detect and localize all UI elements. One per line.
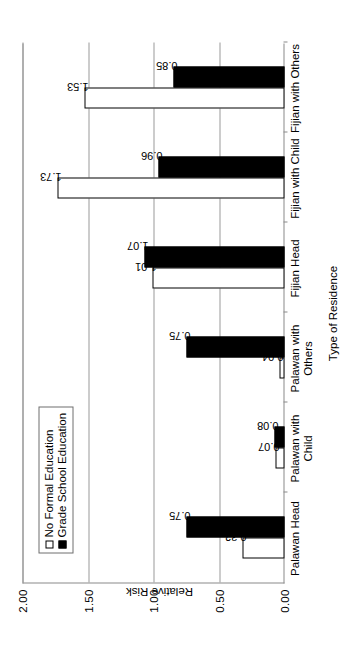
- gridline: [22, 42, 23, 582]
- x-axis-title: Type of Residence: [326, 43, 338, 583]
- bar-value-label: 0.75: [168, 509, 189, 521]
- bar-value-label: 1.53: [66, 80, 87, 92]
- legend-item-grade-school-education: Grade School Education: [55, 412, 68, 548]
- y-tick-label: 0.00: [278, 589, 290, 645]
- x-tick-label: Palawan with Child: [288, 398, 314, 498]
- chart-legend: No Formal Education Grade School Educati…: [38, 406, 73, 553]
- legend-swatch-white-icon: [45, 540, 53, 548]
- x-tick-mark: [283, 41, 287, 42]
- legend-swatch-black-icon: [58, 540, 66, 548]
- bar-grade-school-education: [158, 156, 284, 177]
- x-tick-label: Palawan Head: [288, 488, 301, 588]
- bar-grade-school-education: [173, 66, 284, 87]
- bar-no-formal-education: [242, 537, 284, 558]
- chart-canvas: 0.000.501.001.502.00 Relative Risk 0.320…: [0, 0, 353, 645]
- gridline: [153, 42, 154, 582]
- bar-grade-school-education: [144, 246, 284, 267]
- y-tick-label: 2.00: [16, 589, 28, 645]
- y-axis-title: Relative Risk: [99, 585, 219, 597]
- bar-no-formal-education: [152, 267, 284, 288]
- bar-value-label: 1.73: [40, 170, 61, 182]
- bar-chart-figure: 0.000.501.001.502.00 Relative Risk 0.320…: [0, 0, 353, 645]
- gridline: [219, 42, 220, 582]
- bar-grade-school-education: [186, 516, 284, 537]
- x-tick-mark: [283, 221, 287, 222]
- legend-label: Grade School Education: [55, 412, 68, 537]
- bar-value-label: 0.85: [155, 59, 176, 71]
- bar-grade-school-education: [186, 336, 284, 357]
- bar-value-label: 0.08: [256, 419, 277, 431]
- x-tick-mark: [283, 311, 287, 312]
- bar-no-formal-education: [57, 177, 284, 198]
- x-tick-label: Fijian with Others: [288, 38, 301, 138]
- y-tick-label: 1.50: [82, 589, 94, 645]
- bar-value-label: 1.07: [126, 239, 147, 251]
- x-tick-mark: [283, 131, 287, 132]
- x-tick-label: Palawan with Others: [288, 308, 314, 408]
- legend-label: No Formal Education: [42, 429, 55, 537]
- legend-item-no-formal-education: No Formal Education: [42, 412, 55, 548]
- gridline: [88, 42, 89, 582]
- bar-value-label: 0.96: [141, 149, 162, 161]
- bar-no-formal-education: [84, 87, 284, 108]
- bar-value-label: 0.75: [168, 329, 189, 341]
- x-tick-label: Fijian with Child: [288, 128, 301, 228]
- x-tick-mark: [283, 491, 287, 492]
- x-tick-mark: [283, 401, 287, 402]
- x-tick-label: Fijian Head: [288, 218, 301, 318]
